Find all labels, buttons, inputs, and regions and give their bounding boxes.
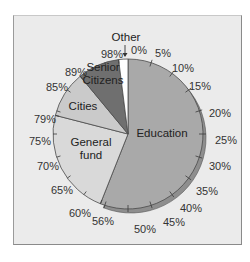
tick-label: 20%: [209, 107, 231, 119]
tick-label: 40%: [180, 202, 202, 214]
pie-chart: EducationGeneralfundCitiesSeniorCitizens…: [0, 0, 250, 262]
tick-label: 25%: [215, 134, 237, 146]
tick-label: 70%: [37, 160, 59, 172]
tick-label: 35%: [196, 185, 218, 197]
slice-label: Cities: [69, 100, 98, 112]
tick-label: 89%: [65, 66, 87, 78]
tick-label: 85%: [46, 81, 68, 93]
tick-label: 10%: [172, 62, 194, 74]
slice-label: SeniorCitizens: [83, 61, 124, 86]
tick-label: 65%: [51, 184, 73, 196]
tick-label: 5%: [155, 47, 171, 59]
tick-label: 45%: [163, 216, 185, 228]
slice-label: Other: [112, 31, 141, 43]
tick-label: 98%: [101, 48, 123, 60]
tick-label: 30%: [209, 160, 231, 172]
tick-label: 60%: [69, 207, 91, 219]
other-arrow-icon: [123, 45, 128, 57]
tick-label: 50%: [134, 223, 156, 235]
tick-label: 56%: [92, 215, 114, 227]
tick-label: 0%: [131, 44, 147, 56]
slice-label: Education: [136, 127, 187, 139]
tick-label: 75%: [29, 135, 51, 147]
tick-label: 15%: [189, 80, 211, 92]
tick-label: 79%: [34, 113, 56, 125]
